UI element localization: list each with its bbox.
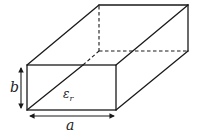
permittivity-label: εr xyxy=(63,88,73,103)
hidden-edges xyxy=(83,6,188,65)
bottom-right-depth-edge xyxy=(116,51,188,110)
width-label: a xyxy=(66,118,74,132)
visible-edges xyxy=(27,5,188,110)
top-left-depth-edge xyxy=(27,5,99,65)
top-right-depth-edge xyxy=(116,5,188,65)
height-label: b xyxy=(10,80,19,94)
bottom-left-depth-edge-hidden xyxy=(83,51,99,65)
permittivity-subscript: r xyxy=(69,94,73,103)
waveguide-diagram xyxy=(0,0,209,135)
bottom-left-depth-edge-visible xyxy=(27,65,83,110)
